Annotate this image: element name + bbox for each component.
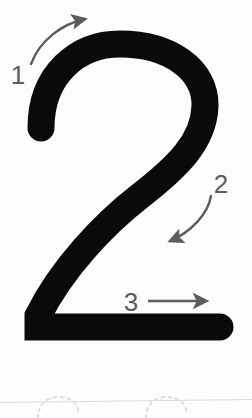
digit-glyph-2 — [38, 44, 220, 327]
ruled-guide-line — [0, 400, 252, 403]
stroke-number-3: 3 — [124, 287, 138, 317]
curved-arrow-down-left-icon — [170, 196, 211, 241]
dotted-practice-digit-1 — [38, 397, 78, 418]
stroke-number-1: 1 — [11, 60, 25, 90]
worksheet-canvas: 1 2 3 — [0, 0, 252, 418]
stroke-order-worksheet: 1 2 3 — [0, 0, 252, 418]
stroke-2-arrow — [170, 196, 211, 241]
stroke-number-2: 2 — [214, 169, 228, 199]
